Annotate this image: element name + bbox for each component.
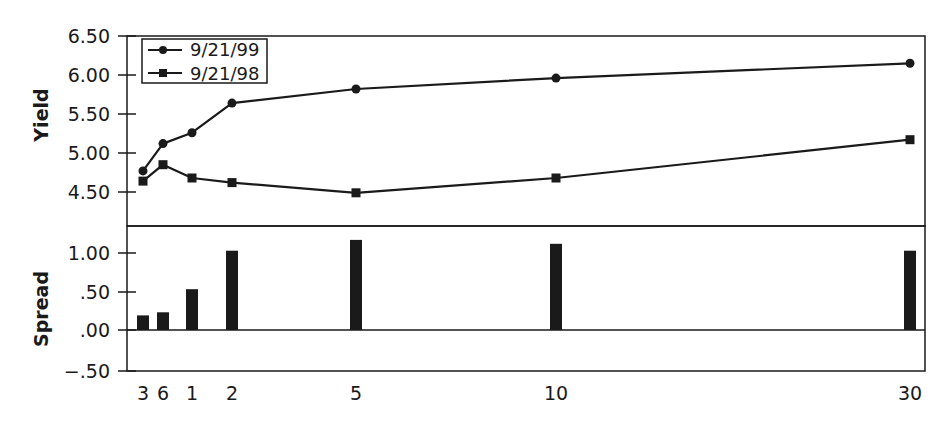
y-tick-label: 1.00 <box>68 242 110 264</box>
x-tick-label: 2 <box>226 382 238 404</box>
yield-axis-title: Yield <box>30 88 52 142</box>
square-marker-icon <box>906 135 915 144</box>
circle-marker-icon <box>159 46 167 54</box>
spread-bar <box>186 289 198 330</box>
circle-marker-icon <box>159 139 168 148</box>
square-marker-icon <box>159 160 168 169</box>
circle-marker-icon <box>352 85 361 94</box>
spread-bar <box>904 251 916 330</box>
y-tick-label: −.50 <box>64 360 110 382</box>
square-marker-icon <box>352 188 361 197</box>
bottom-panel-frame <box>127 226 925 371</box>
square-marker-icon <box>552 174 561 183</box>
square-marker-icon <box>228 178 237 187</box>
circle-marker-icon <box>188 128 197 137</box>
spread-bar <box>226 251 238 330</box>
circle-marker-icon <box>139 166 148 175</box>
y-tick-label: .00 <box>80 319 110 341</box>
spread-bars <box>137 240 916 330</box>
y-tick-label: 6.50 <box>68 25 110 47</box>
x-tick-label: 1 <box>186 382 198 404</box>
circle-marker-icon <box>228 99 237 108</box>
legend: 9/21/99 9/21/98 <box>142 39 267 84</box>
y-tick-label: .50 <box>80 281 110 303</box>
circle-marker-icon <box>552 74 561 83</box>
spread-bar <box>350 240 362 330</box>
circle-marker-icon <box>906 59 915 68</box>
spread-bar <box>157 312 169 330</box>
square-marker-icon <box>139 177 148 186</box>
spread-bar <box>137 315 149 330</box>
legend-label: 9/21/98 <box>190 63 259 84</box>
square-marker-icon <box>159 69 167 77</box>
spread-bar <box>550 244 562 330</box>
bottom-y-axis-ticks: 1.00.50.00−.50 <box>64 242 136 382</box>
top-y-axis-ticks: 6.506.005.505.004.50 <box>68 25 136 203</box>
y-tick-label: 5.00 <box>68 142 110 164</box>
x-tick-label: 10 <box>544 382 568 404</box>
square-marker-icon <box>188 174 197 183</box>
x-tick-label: 3 <box>137 382 149 404</box>
y-tick-label: 6.00 <box>68 64 110 86</box>
legend-label: 9/21/99 <box>190 39 259 60</box>
x-tick-label: 30 <box>898 382 922 404</box>
yield-curve-chart: Yield Spread 6.506.005.505.004.50 1.00.5… <box>0 0 951 431</box>
y-tick-label: 4.50 <box>68 181 110 203</box>
x-tick-label: 6 <box>157 382 169 404</box>
x-tick-label: 5 <box>350 382 362 404</box>
spread-axis-title: Spread <box>30 271 52 347</box>
series-9-21-98 <box>139 135 915 197</box>
y-tick-label: 5.50 <box>68 103 110 125</box>
series-line <box>143 140 910 193</box>
x-axis-ticks: 361251030 <box>137 382 922 404</box>
